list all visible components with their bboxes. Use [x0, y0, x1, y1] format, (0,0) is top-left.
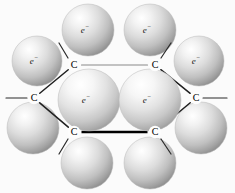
- electron-cloud: e−: [58, 69, 120, 131]
- carbon-atom: C: [28, 92, 40, 104]
- carbon-atom: C: [149, 59, 161, 71]
- benzene-electron-diagram: e−e−e−e− e−e− CCCCCC: [0, 0, 235, 193]
- carbon-atom-label: C: [152, 126, 159, 137]
- carbon-atom-label: C: [71, 126, 78, 137]
- carbon-atom-label: C: [31, 92, 38, 103]
- carbon-atom-label: C: [71, 59, 78, 70]
- diagram-canvas: e−e−e−e− e−e− CCCCCC: [0, 0, 235, 193]
- electron-cloud: e−: [119, 69, 181, 131]
- carbon-atom-label: C: [152, 59, 159, 70]
- electron-cloud: [61, 137, 113, 189]
- electron-cloud: e−: [12, 36, 62, 86]
- carbon-atom: C: [190, 92, 202, 104]
- carbon-atom: C: [68, 59, 80, 71]
- electron-cloud: e−: [62, 4, 114, 56]
- carbon-atom: C: [68, 126, 80, 138]
- carbon-atom: C: [149, 126, 161, 138]
- electron-cloud: [7, 102, 59, 154]
- electron-cloud: [124, 137, 176, 189]
- electron-cloud: e−: [174, 36, 224, 86]
- carbon-atom-label: C: [193, 92, 200, 103]
